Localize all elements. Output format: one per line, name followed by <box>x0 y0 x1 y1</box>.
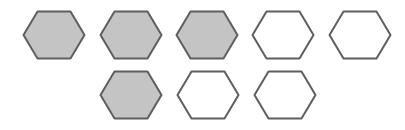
empty-hexagon-icon <box>178 72 239 119</box>
filled-hexagon-icon <box>101 12 162 59</box>
hexagon-diagram <box>0 0 405 130</box>
filled-hexagon-icon <box>24 12 85 59</box>
empty-hexagon-icon <box>255 72 316 119</box>
empty-hexagon-icon <box>330 12 391 59</box>
empty-hexagon-icon <box>253 12 314 59</box>
filled-hexagon-icon <box>177 12 238 59</box>
filled-hexagon-icon <box>101 72 162 119</box>
